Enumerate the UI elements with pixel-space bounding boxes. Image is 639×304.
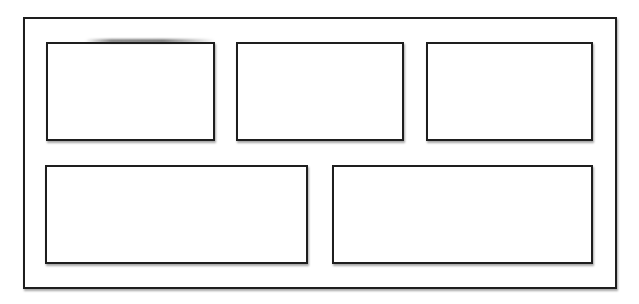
top-row-box-2 — [236, 42, 404, 141]
pen-smudge-mark — [85, 39, 215, 43]
bottom-row-box-1 — [45, 165, 308, 264]
bottom-row-box-2 — [332, 165, 593, 264]
top-row-box-1 — [46, 42, 215, 141]
top-row-box-3 — [426, 42, 593, 141]
